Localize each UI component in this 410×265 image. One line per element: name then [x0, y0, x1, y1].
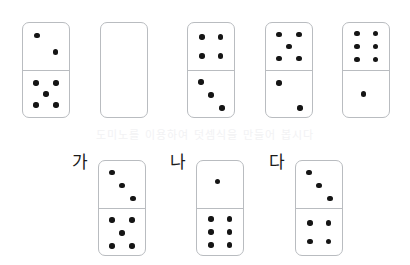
domino-pip — [109, 243, 114, 248]
domino-pip — [227, 216, 232, 221]
domino-pip — [296, 32, 301, 37]
domino-pip — [297, 105, 302, 110]
domino-pip — [198, 79, 203, 84]
domino-pip — [53, 80, 58, 85]
domino-pip — [130, 196, 135, 201]
domino-half-bottom — [99, 208, 145, 255]
domino-pip — [373, 31, 378, 36]
domino-pip — [218, 34, 223, 39]
domino-half-bottom — [343, 70, 389, 117]
domino-half-top — [296, 161, 342, 208]
domino-5[interactable] — [342, 22, 390, 118]
domino-half-top — [197, 161, 243, 208]
domino-pip — [208, 242, 213, 247]
domino-pip — [199, 53, 204, 58]
domino-pip — [208, 92, 213, 97]
domino-pip — [199, 34, 204, 39]
domino-4[interactable] — [265, 22, 313, 118]
domino-half-top — [99, 161, 145, 208]
domino-half-top — [343, 23, 389, 70]
domino-label-ga: 가 — [72, 154, 88, 171]
domino-pip — [129, 217, 134, 222]
domino-ga[interactable] — [98, 160, 146, 256]
domino-pip — [34, 33, 39, 38]
domino-pip — [215, 179, 220, 184]
domino-pip — [109, 217, 114, 222]
domino-label-da: 다 — [269, 154, 285, 171]
domino-pip — [219, 105, 224, 110]
domino-pip — [276, 56, 281, 61]
domino-half-bottom — [188, 70, 234, 117]
domino-pip — [218, 53, 223, 58]
domino-pip — [306, 170, 311, 175]
domino-pip — [354, 57, 359, 62]
domino-1[interactable] — [22, 22, 70, 118]
domino-pip — [43, 91, 48, 96]
domino-pip — [354, 31, 359, 36]
domino-pip — [119, 230, 124, 235]
domino-da[interactable] — [295, 160, 343, 256]
domino-pip — [373, 44, 378, 49]
domino-3[interactable] — [187, 22, 235, 118]
domino-pip — [354, 44, 359, 49]
domino-pip — [227, 242, 232, 247]
domino-pip — [326, 220, 331, 225]
domino-half-bottom — [101, 70, 147, 117]
domino-worksheet: 도미노를 이용하여 덧셈식을 만들어 봅시다 가나다 — [0, 0, 410, 265]
domino-half-bottom — [197, 208, 243, 255]
domino-half-bottom — [266, 70, 312, 117]
domino-pip — [307, 220, 312, 225]
scan-bleedthrough-text: 도미노를 이용하여 덧셈식을 만들어 봅시다 — [0, 124, 410, 146]
domino-half-bottom — [23, 70, 69, 117]
domino-pip — [361, 91, 366, 96]
domino-pip — [327, 196, 332, 201]
domino-pip — [276, 32, 281, 37]
domino-pip — [119, 183, 124, 188]
domino-half-top — [188, 23, 234, 70]
domino-pip — [33, 102, 38, 107]
domino-pip — [109, 170, 114, 175]
domino-half-top — [101, 23, 147, 70]
domino-pip — [307, 239, 312, 244]
domino-pip — [286, 44, 291, 49]
domino-pip — [208, 216, 213, 221]
domino-pip — [296, 56, 301, 61]
domino-2[interactable] — [100, 22, 148, 118]
domino-half-top — [266, 23, 312, 70]
domino-pip — [326, 239, 331, 244]
domino-na[interactable] — [196, 160, 244, 256]
domino-half-top — [23, 23, 69, 70]
domino-pip — [53, 102, 58, 107]
domino-pip — [227, 229, 232, 234]
domino-pip — [373, 57, 378, 62]
domino-pip — [129, 243, 134, 248]
domino-label-na: 나 — [170, 154, 186, 171]
domino-pip — [53, 49, 58, 54]
domino-pip — [316, 183, 321, 188]
domino-pip — [208, 229, 213, 234]
domino-half-bottom — [296, 208, 342, 255]
domino-pip — [276, 80, 281, 85]
domino-pip — [33, 80, 38, 85]
